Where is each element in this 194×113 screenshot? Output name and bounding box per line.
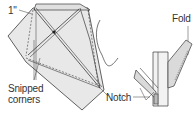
- fold-label: Fold: [172, 13, 191, 24]
- folding-diagram: 1" Snipped corners Notch Fold: [0, 0, 194, 113]
- notch: [154, 94, 158, 104]
- notch-label: Notch: [106, 92, 131, 103]
- fold-flap: [168, 40, 192, 88]
- snipped-corners-label-line1: Snipped: [8, 83, 43, 94]
- measure-label: 1": [8, 5, 17, 16]
- fold-center: [52, 30, 55, 33]
- snipped-corners-label-line2: corners: [8, 94, 40, 105]
- top-flap: [34, 4, 90, 10]
